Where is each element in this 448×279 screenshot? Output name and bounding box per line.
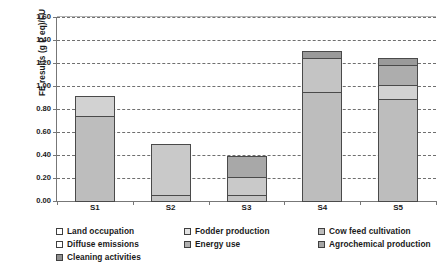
bar-s2 — [151, 142, 191, 201]
legend-swatch-icon — [56, 228, 63, 235]
bar-segment — [227, 156, 267, 178]
y-axis-tick-label: 0.80 — [21, 104, 51, 113]
plot-area: 0.000.200.400.600.801.001.201.401.60S1S2… — [56, 17, 436, 202]
legend-item-label: Diffuse emissions — [67, 239, 139, 249]
x-axis-tick-mark — [57, 201, 58, 205]
legend-swatch-icon — [56, 241, 63, 248]
y-axis-tick-mark — [53, 109, 57, 110]
legend-item[interactable]: Cleaning activities — [56, 252, 141, 262]
y-axis-tick-label: 1.20 — [21, 58, 51, 67]
y-axis-tick-label: 1.40 — [21, 35, 51, 44]
y-axis-tick-label: 0.40 — [21, 150, 51, 159]
x-axis-label-s4: S4 — [292, 203, 352, 212]
legend-item-label: Land occupation — [67, 226, 134, 236]
y-axis-tick-label: 0.00 — [21, 196, 51, 205]
legend-swatch-icon — [184, 241, 191, 248]
chart-legend: Land occupationFodder productionCow feed… — [56, 226, 448, 274]
legend-swatch-icon — [318, 241, 325, 248]
legend-item[interactable]: Fodder production — [184, 226, 270, 236]
x-axis-tick-mark — [360, 201, 361, 205]
x-axis-tick-mark — [436, 201, 437, 205]
legend-item-label: Fodder production — [195, 226, 270, 236]
bar-segment — [302, 58, 342, 93]
bar-segment — [151, 144, 191, 196]
legend-item[interactable]: Energy use — [184, 239, 240, 249]
y-axis-tick-mark — [53, 155, 57, 156]
y-axis-tick-mark — [53, 86, 57, 87]
fe-results-stacked-bar-chart: FE results (g P eq)/FU 0.000.200.400.600… — [0, 0, 448, 279]
x-axis-tick-mark — [284, 201, 285, 205]
bar-segment — [151, 195, 191, 202]
bar-s3 — [227, 153, 267, 201]
x-axis-label-s1: S1 — [65, 203, 125, 212]
y-axis-tick-label: 1.60 — [21, 12, 51, 21]
legend-swatch-icon — [318, 228, 325, 235]
bar-segment — [302, 92, 342, 202]
x-axis-tick-mark — [209, 201, 210, 205]
legend-item-label: Agrochemical production — [329, 239, 431, 249]
y-axis-tick-mark — [53, 63, 57, 64]
x-axis-tick-mark — [133, 201, 134, 205]
legend-item-label: Energy use — [195, 239, 240, 249]
bar-s5 — [378, 54, 418, 201]
gridline — [57, 17, 436, 18]
y-axis-tick-label: 0.20 — [21, 173, 51, 182]
legend-item[interactable]: Agrochemical production — [318, 239, 431, 249]
x-axis-label-s2: S2 — [141, 203, 201, 212]
legend-item[interactable]: Land occupation — [56, 226, 134, 236]
y-axis-tick-mark — [53, 17, 57, 18]
x-axis-label-s3: S3 — [217, 203, 277, 212]
legend-item[interactable]: Diffuse emissions — [56, 239, 139, 249]
gridline — [57, 40, 436, 41]
y-axis-tick-mark — [53, 40, 57, 41]
x-axis-label-s5: S5 — [368, 203, 428, 212]
y-axis-tick-mark — [53, 178, 57, 179]
legend-swatch-icon — [184, 228, 191, 235]
legend-swatch-icon — [56, 254, 63, 261]
legend-item[interactable]: Cow feed cultivation — [318, 226, 411, 236]
bar-s1 — [75, 94, 115, 201]
bar-segment — [75, 116, 115, 202]
legend-item-label: Cow feed cultivation — [329, 226, 411, 236]
y-axis-tick-label: 0.60 — [21, 127, 51, 136]
bar-segment — [378, 99, 418, 203]
bar-segment — [227, 177, 267, 197]
bar-segment — [227, 195, 267, 202]
bar-segment — [378, 85, 418, 100]
y-axis-tick-mark — [53, 132, 57, 133]
bar-segment — [378, 65, 418, 86]
bar-s4 — [302, 48, 342, 201]
bar-segment — [75, 96, 115, 117]
y-axis-tick-label: 1.00 — [21, 81, 51, 90]
legend-item-label: Cleaning activities — [67, 252, 141, 262]
